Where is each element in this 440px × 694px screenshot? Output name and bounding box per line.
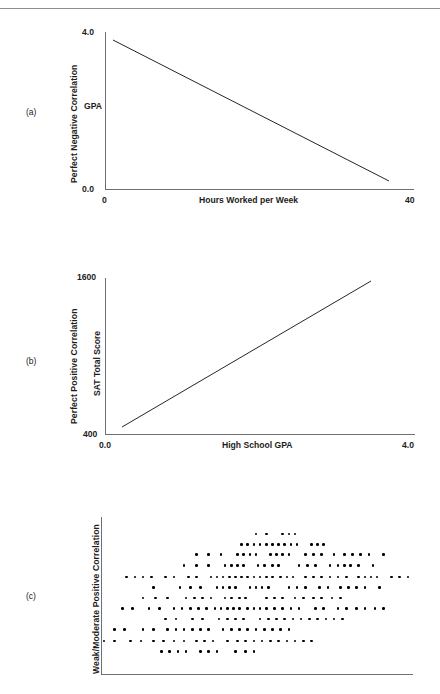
- scatter-point: [281, 607, 284, 610]
- scatter-point: [269, 640, 272, 643]
- scatter-point: [103, 640, 106, 643]
- scatter-point: [296, 543, 299, 546]
- scatter-point: [129, 640, 132, 643]
- scatter-point: [255, 553, 258, 556]
- scatter-point: [357, 576, 360, 579]
- scatter-point: [261, 586, 264, 589]
- scatter-point: [372, 564, 375, 567]
- scatter-point: [207, 564, 210, 567]
- scatter-point: [288, 533, 291, 536]
- scatter-point: [316, 618, 319, 621]
- scatter-point: [236, 564, 239, 567]
- scatter-point: [275, 618, 278, 621]
- scatter-point: [195, 564, 198, 567]
- scatter-point: [259, 607, 262, 610]
- scatter-point: [312, 597, 315, 600]
- scatter-point: [275, 553, 278, 556]
- scatter-point: [271, 543, 274, 546]
- scatter-point: [183, 640, 186, 643]
- scatter-point: [300, 618, 303, 621]
- scatter-point: [240, 543, 243, 546]
- scatter-point: [183, 628, 186, 631]
- scatter-point: [302, 640, 305, 643]
- scatter-point: [207, 553, 210, 556]
- scatter-point: [277, 543, 280, 546]
- scatter-point: [142, 576, 145, 579]
- scatter-point: [310, 640, 313, 643]
- scatter-point: [189, 586, 192, 589]
- figure-page: (a) Perfect Negative Correlation GPA 4.0…: [0, 0, 440, 694]
- scatter-point: [246, 628, 249, 631]
- scatter-point: [249, 553, 252, 556]
- scatter-point: [242, 618, 245, 621]
- scatter-point: [168, 650, 171, 653]
- scatter-point: [236, 640, 239, 643]
- scatter-point: [261, 640, 264, 643]
- scatter-point: [232, 607, 235, 610]
- scatter-point: [316, 543, 319, 546]
- scatter-point: [125, 576, 128, 579]
- scatter-point: [216, 650, 219, 653]
- scatter-point: [166, 628, 169, 631]
- scatter-point: [177, 650, 180, 653]
- scatter-point: [364, 576, 367, 579]
- scatter-point: [195, 576, 198, 579]
- scatter-point: [230, 564, 233, 567]
- scatter-point: [314, 564, 317, 567]
- scatter-point: [337, 576, 340, 579]
- scatter-point: [193, 597, 196, 600]
- scatter-point: [304, 576, 307, 579]
- scatter-point: [259, 543, 262, 546]
- scatter-point: [230, 597, 233, 600]
- scatter-point: [199, 586, 202, 589]
- scatter-point: [166, 597, 169, 600]
- scatter-point: [164, 618, 167, 621]
- scatter-point: [286, 576, 289, 579]
- scatter-point: [142, 628, 145, 631]
- scatter-point: [244, 640, 247, 643]
- scatter-point: [224, 564, 227, 567]
- scatter-point: [265, 543, 268, 546]
- scatter-point: [175, 618, 178, 621]
- scatter-point: [230, 628, 233, 631]
- scatter-point: [294, 533, 297, 536]
- scatter-point: [286, 640, 289, 643]
- scatter-point: [148, 607, 151, 610]
- scatter-point: [398, 576, 401, 579]
- scatter-point: [331, 597, 334, 600]
- scatter-point: [333, 553, 336, 556]
- scatter-point: [207, 650, 210, 653]
- scatter-point: [364, 607, 367, 610]
- scatter-point: [253, 576, 256, 579]
- panel-c-scatter-points: [0, 0, 440, 694]
- scatter-point: [333, 618, 336, 621]
- scatter-point: [113, 640, 116, 643]
- scatter-point: [306, 564, 309, 567]
- scatter-point: [199, 650, 202, 653]
- scatter-point: [197, 607, 200, 610]
- scatter-point: [220, 553, 223, 556]
- scatter-point: [195, 640, 198, 643]
- scatter-point: [226, 618, 229, 621]
- scatter-point: [290, 543, 293, 546]
- scatter-point: [310, 543, 313, 546]
- scatter-point: [292, 618, 295, 621]
- scatter-point: [226, 607, 229, 610]
- scatter-point: [255, 533, 258, 536]
- scatter-point: [281, 597, 284, 600]
- scatter-point: [343, 553, 346, 556]
- scatter-point: [267, 586, 270, 589]
- scatter-point: [201, 597, 204, 600]
- scatter-point: [288, 586, 291, 589]
- scatter-point: [390, 576, 393, 579]
- scatter-point: [228, 586, 231, 589]
- scatter-point: [236, 553, 239, 556]
- scatter-point: [246, 576, 249, 579]
- scatter-point: [294, 597, 297, 600]
- scatter-point: [191, 628, 194, 631]
- scatter-point: [210, 576, 213, 579]
- scatter-point: [281, 553, 284, 556]
- scatter-point: [253, 650, 256, 653]
- scatter-point: [298, 607, 301, 610]
- scatter-point: [228, 576, 231, 579]
